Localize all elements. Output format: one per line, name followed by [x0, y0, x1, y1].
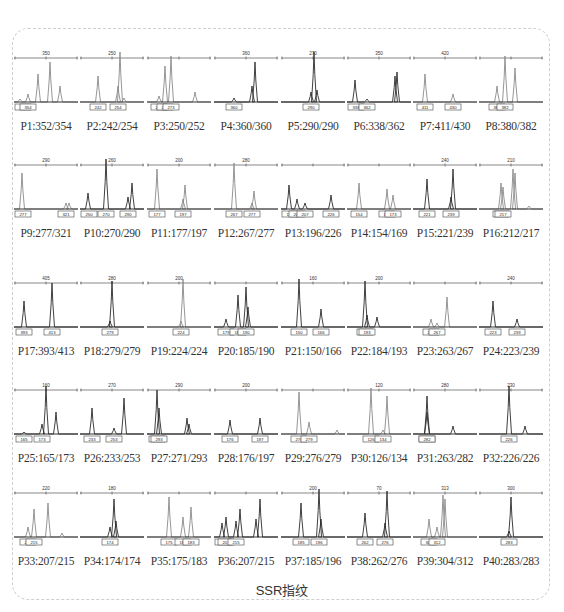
allele-call-text: 360 [231, 105, 239, 110]
ruler-tick-label: 120 [375, 383, 383, 388]
allele-call-text: 150 [296, 330, 304, 335]
allele-call-text: 215 [31, 540, 39, 545]
electropherogram-trace: 120 126134 [347, 372, 411, 450]
genotype-label: P13:196/226 [275, 227, 351, 239]
electropherogram-panel: 280 267277 P12:267/277 [214, 147, 278, 247]
genotype-label: P39:304/312 [407, 555, 483, 567]
electropherogram-panel: 240 221239 P15:221/239 [413, 147, 477, 247]
electropherogram-panel: 175180183 P35:175/183 [147, 475, 211, 575]
allele-call-text: 173 [39, 437, 47, 442]
electropherogram-trace: 405 393413 [14, 265, 78, 343]
allele-call-text: 207 [302, 212, 310, 217]
electropherogram-panel: 380382 P8:380/382 [479, 40, 543, 140]
ruler-tick-label: 350 [42, 51, 50, 56]
peak-trace [14, 173, 78, 209]
allele-call-text: 293 [156, 437, 164, 442]
peak-trace [281, 489, 345, 537]
electropherogram-trace: 350 352354 [14, 40, 78, 118]
electropherogram-panel: 240 223239 P24:223/239 [479, 265, 543, 365]
ruler-tick-label: 210 [507, 158, 515, 163]
peak-trace [479, 301, 543, 327]
electropherogram-trace: 179185190 [214, 265, 278, 343]
peak-trace [413, 169, 477, 209]
electropherogram-trace: 420 411430 [413, 40, 477, 118]
allele-call-text: 217 [500, 212, 508, 217]
allele-call-text: 273 [168, 105, 176, 110]
electropherogram-panel: 250 242254 P2:242/254 [80, 40, 144, 140]
electropherogram-trace: 70 262276 [347, 475, 411, 553]
allele-call-text: 283 [506, 540, 514, 545]
allele-call-text: 276 [382, 540, 390, 545]
genotype-label: P33:207/215 [8, 555, 84, 567]
allele-call-text: 173 [390, 212, 398, 217]
allele-call-text: 242 [95, 105, 103, 110]
allele-call-text: 250 [86, 212, 94, 217]
electropherogram-panel: 313 304312 P39:304/312 [413, 475, 477, 575]
electropherogram-trace: 200 184193 [347, 265, 411, 343]
ruler-tick-label: 290 [42, 158, 50, 163]
electropherogram-trace: 154169173 [347, 147, 411, 225]
allele-call-text: 267 [231, 212, 239, 217]
genotype-label: P14:154/169 [341, 227, 417, 239]
electropherogram-panel: 204207215 P36:207/215 [214, 475, 278, 575]
peak-trace [281, 392, 345, 434]
electropherogram-trace: 175180183 [147, 475, 211, 553]
peak-trace [413, 74, 477, 102]
allele-call-text: 411 [422, 105, 429, 110]
electropherogram-trace: 200 176197 [214, 372, 278, 450]
electropherogram-trace: 220 207215 [14, 475, 78, 553]
electropherogram-trace: 180 174 [80, 475, 144, 553]
ruler-tick-label: 220 [42, 486, 50, 491]
allele-call-text: 175 [166, 540, 174, 545]
peak-trace [214, 163, 278, 209]
electropherogram-trace: 350 338362 [347, 40, 411, 118]
ruler-tick-label: 200 [242, 383, 250, 388]
allele-call-text: 176 [227, 437, 235, 442]
electropherogram-panel: 300 283 P40:283/283 [479, 475, 543, 575]
electropherogram-panel: 200 185196 P37:185/196 [281, 475, 345, 575]
electropherogram-trace: 196206207226 [281, 147, 345, 225]
allele-call-text: 126 [368, 437, 376, 442]
genotype-label: P25:165/173 [8, 452, 84, 464]
electropherogram-panel: 276279 P29:276/279 [281, 372, 345, 472]
electropherogram-panel: 200 177197 P11:177/197 [147, 147, 211, 247]
electropherogram-trace: 200 224 [147, 265, 211, 343]
peak-trace [281, 185, 345, 209]
allele-call-text: 270 [103, 212, 111, 217]
ruler-tick-label: 405 [42, 276, 50, 281]
peak-trace [347, 183, 411, 209]
electropherogram-panel: 70 262276 P38:262/276 [347, 475, 411, 575]
ruler-tick-label: 350 [375, 51, 383, 56]
electropherogram-trace: 270 233253 [80, 372, 144, 450]
allele-call-text: 154 [356, 212, 364, 217]
ruler-tick-label: 280 [108, 276, 116, 281]
electropherogram-panel: 270 233253 P26:233/253 [80, 372, 144, 472]
allele-call-text: 134 [380, 437, 388, 442]
electropherogram-trace: 240 223239 [479, 265, 543, 343]
allele-call-text: 197 [180, 212, 188, 217]
allele-call-text: 267 [434, 330, 442, 335]
genotype-label: P1:352/354 [8, 120, 84, 132]
genotype-label: P38:262/276 [341, 555, 417, 567]
peak-trace [80, 281, 144, 327]
ruler-tick-label: 240 [507, 276, 515, 281]
genotype-label: P21:150/166 [275, 345, 351, 357]
genotype-label: P3:250/252 [141, 120, 217, 132]
ruler-tick-label: 250 [108, 51, 116, 56]
allele-call-text: 179 [223, 330, 231, 335]
electropherogram-trace: 210 212217 [479, 147, 543, 225]
electropherogram-panel: 200 224 P19:224/224 [147, 265, 211, 365]
genotype-label: P26:233/253 [74, 452, 150, 464]
electropherogram-trace: 280 263282 [413, 372, 477, 450]
peak-trace [80, 499, 144, 537]
electropherogram-trace: 250 242254 [80, 40, 144, 118]
peak-trace [413, 297, 477, 327]
genotype-label: P28:176/197 [208, 452, 284, 464]
ruler-tick-label: 313 [441, 486, 449, 491]
electropherogram-trace: 230 226 [479, 372, 543, 450]
electropherogram-trace: 276279 [281, 372, 345, 450]
genotype-label: P20:185/190 [208, 345, 284, 357]
allele-call-text: 413 [49, 330, 57, 335]
genotype-label: P9:277/321 [8, 227, 84, 239]
peak-trace [479, 386, 543, 434]
